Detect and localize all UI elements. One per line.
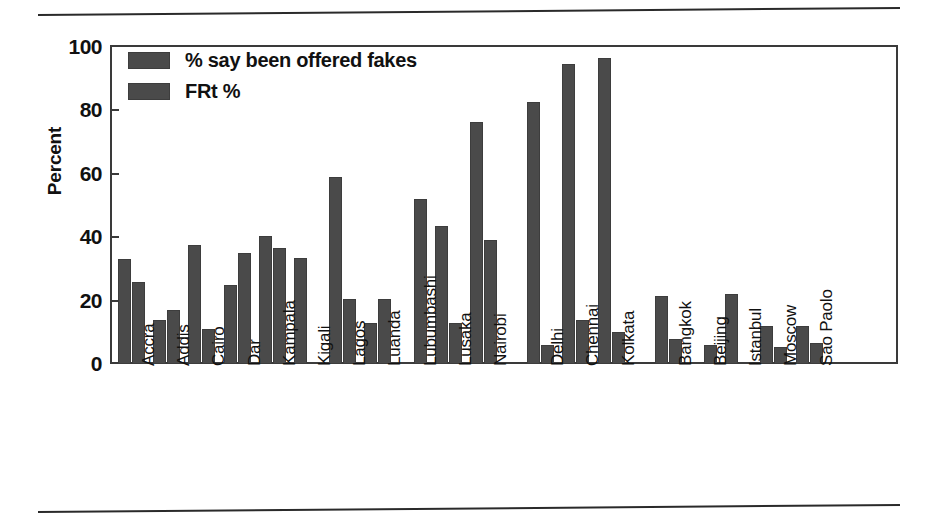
bar-group [527,47,556,364]
legend-label: FRt % [185,80,240,103]
y-tick-mark [110,173,119,175]
x-tick-label: Kampala [280,300,300,366]
x-tick-label: Cairo [209,326,229,366]
x-tick-label: Delhi [548,328,568,366]
x-tick-label: Dar [245,339,265,366]
y-tick-label: 100 [54,35,102,59]
x-tick-label: Accra [139,324,159,366]
legend-swatch [128,52,170,69]
x-tick-label: Kolkata [619,311,639,366]
x-tick-label: Lagos [350,321,370,366]
x-tick-label: Bangkok [676,301,696,366]
legend-item: % say been offered fakes [128,50,468,70]
x-tick-label: Kigali [315,326,335,366]
x-axis-tick-labels: AccraAddisCairoDarKampalaKigaliLagosLuan… [112,366,896,516]
y-tick-mark [110,109,119,111]
y-tick-label: 80 [54,98,102,122]
y-tick-mark [110,300,119,302]
bar [527,102,540,364]
legend-swatch [128,83,170,100]
y-tick-label: 40 [54,225,102,249]
chart-legend: % say been offered fakesFRt % [128,50,468,112]
x-tick-label: Lubumbashi [421,275,441,366]
y-tick-mark [110,236,119,238]
bar [655,296,668,364]
x-tick-label: Addis [174,324,194,366]
x-tick-label: Sao Paolo [817,289,837,366]
y-tick-label: 60 [54,162,102,186]
x-tick-label: Luanda [385,310,405,366]
y-tick-label: 20 [54,289,102,313]
x-tick-label: Moscow [781,305,801,366]
figure-top-rule [38,7,900,16]
x-tick-label: Beijing [711,316,731,366]
bar [562,64,575,364]
legend-item: FRt % [128,81,468,101]
y-axis-tick-labels: 100806040200 [50,0,102,526]
bar [118,259,131,364]
x-tick-label: Chennai [583,304,603,366]
x-tick-label: Nairobi [491,314,511,366]
x-tick-label: Lusaka [456,312,476,366]
y-tick-label: 0 [54,352,102,376]
legend-label: % say been offered fakes [185,49,417,72]
x-tick-label: Istanbul [746,308,766,366]
